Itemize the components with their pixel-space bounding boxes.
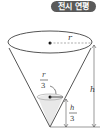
height-label: h: [90, 85, 95, 94]
liquid-height-denominator: 3: [70, 115, 74, 123]
liquid-radius-numerator: r: [42, 71, 46, 79]
radius-label: r: [68, 33, 73, 42]
leader-arrow: [50, 86, 56, 94]
liquid-height-numerator: h: [70, 104, 75, 112]
liquid-radius-denominator: 3: [41, 82, 45, 90]
cone-diagram: r r 3 h h 3: [0, 0, 106, 137]
